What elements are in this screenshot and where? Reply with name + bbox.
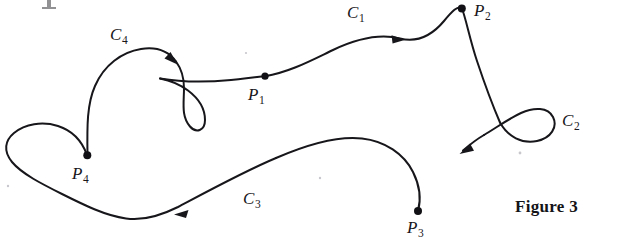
node-label-p2: P2 [474,2,490,19]
curve-label-c2: C2 [562,112,579,129]
curve-c1-arrowhead [392,35,406,43]
curve-c3 [6,124,419,220]
paper-speck [7,185,9,187]
curve-c3-arrowhead [174,210,189,218]
node-label-p3: P3 [407,219,423,236]
paper-speck [319,177,321,179]
curve-c4-tail [160,76,265,81]
node-label-p1-base: P [248,85,259,104]
curve-label-c2-subscript: 2 [574,120,580,132]
paper-speck [245,52,247,54]
curve-c2-loop [484,109,555,142]
paper-speck [519,152,522,155]
curve-label-c4-subscript: 4 [122,34,128,46]
node-dot-p3 [414,207,422,215]
node-label-p3-subscript: 3 [418,227,424,239]
node-label-p1: P1 [248,86,264,103]
node-dot-p2 [458,4,466,12]
curve-label-c4: C4 [110,26,127,43]
curve-c3-rise [276,138,420,211]
curve-c4-loop [160,62,205,131]
curve-label-c1: C1 [347,4,364,21]
curve-label-c3-base: C [243,189,255,208]
curve-label-c1-base: C [347,3,359,22]
node-label-p4-subscript: 4 [83,173,89,185]
curve-label-c1-subscript: 1 [359,12,365,24]
curve-label-c2-base: C [562,111,574,130]
curve-c2 [460,9,555,155]
node-dot-p1 [261,73,268,80]
node-dot-p4 [83,151,91,159]
node-label-p2-base: P [474,1,485,20]
node-label-p4: P4 [72,165,88,182]
curve-c2-arrowhead [460,144,475,155]
node-label-p2-subscript: 2 [485,10,491,22]
node-label-p3-base: P [407,218,418,237]
curve-c4-stem [87,48,176,155]
figure-diagram-container: P1 P2 P3 P4 C1 C2 C3 C4 Figure 3 [0,0,626,240]
curve-label-c3: C3 [243,190,260,207]
curve-c4 [87,48,265,155]
curve-label-c4-base: C [110,25,122,44]
curve-c3-sweep [6,124,276,220]
node-label-p1-subscript: 1 [259,94,265,106]
curve-c2-head [462,9,500,123]
figure-caption: Figure 3 [515,198,578,215]
node-label-p4-base: P [72,164,83,183]
curve-label-c3-subscript: 3 [255,198,261,210]
